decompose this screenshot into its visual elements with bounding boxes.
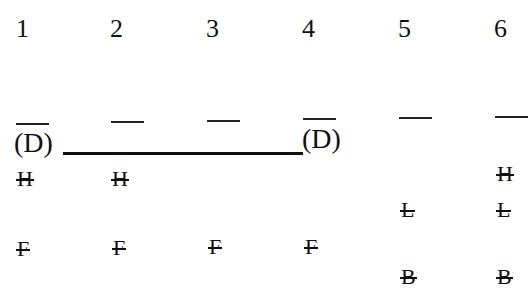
letter-1-F: F [17, 237, 29, 261]
letter-6-H: H [497, 162, 513, 186]
column-number-3: 3 [206, 14, 219, 44]
letter-1-H: H [17, 167, 33, 191]
letter-5-B: B [401, 265, 416, 289]
blank-slot-6 [495, 116, 528, 118]
letter-3-F: F [209, 235, 221, 259]
connector-line [63, 152, 303, 155]
blank-slot-3 [207, 120, 240, 122]
column-number-1: 1 [16, 14, 29, 44]
blank-slot-2 [111, 121, 144, 123]
letter-6-L: L [497, 198, 510, 222]
letter-4-F: F [305, 235, 317, 259]
dominant-label-1: (D) [14, 128, 53, 158]
letter-6-B: B [497, 265, 512, 289]
letter-2-H: H [112, 167, 128, 191]
blank-slot-5 [399, 117, 432, 119]
column-number-2: 2 [110, 14, 123, 44]
blank-slot-1 [16, 123, 49, 125]
dominant-label-4: (D) [302, 124, 341, 154]
blank-slot-4 [303, 118, 336, 120]
letter-2-F: F [113, 236, 125, 260]
column-number-4: 4 [302, 14, 315, 44]
column-number-6: 6 [494, 14, 507, 44]
column-number-5: 5 [398, 14, 411, 44]
letter-5-L: L [401, 198, 414, 222]
